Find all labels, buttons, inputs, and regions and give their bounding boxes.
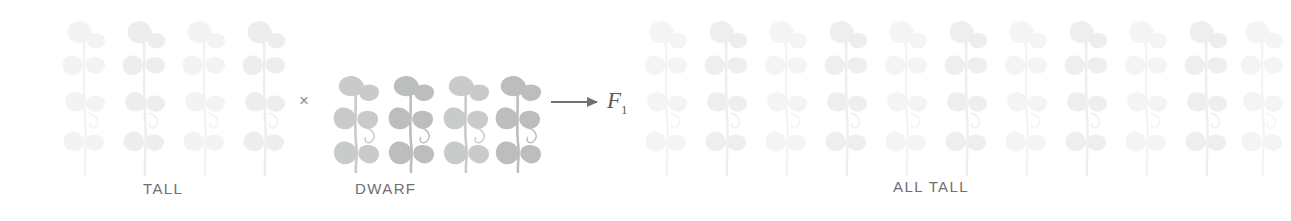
plant-tall xyxy=(1000,17,1054,177)
plant-dwarf xyxy=(330,73,384,173)
label-dwarf: DWARF xyxy=(355,180,416,197)
generation-label: F1 xyxy=(607,89,628,116)
cross-result-arrow-group: F1 xyxy=(551,89,628,116)
plant-tall xyxy=(760,17,814,177)
plant-tall xyxy=(700,17,754,177)
cross-symbol: × xyxy=(299,92,309,109)
monohybrid-cross-figure: TALL × DWARF F1 ALL TALL xyxy=(0,0,1291,221)
plant-tall xyxy=(820,17,874,177)
arrow-right-icon xyxy=(551,101,597,103)
plant-tall xyxy=(1236,17,1290,177)
generation-subscript: 1 xyxy=(621,102,628,117)
plant-dwarf xyxy=(385,73,439,173)
plant-tall xyxy=(238,17,292,177)
label-tall: TALL xyxy=(143,180,183,197)
plant-tall xyxy=(178,17,232,177)
plant-tall xyxy=(58,17,112,177)
plant-dwarf xyxy=(440,73,494,173)
plant-tall xyxy=(640,17,694,177)
plant-tall xyxy=(118,17,172,177)
generation-letter: F xyxy=(607,88,621,113)
plant-tall xyxy=(940,17,994,177)
plant-tall xyxy=(1180,17,1234,177)
plant-dwarf xyxy=(492,73,546,173)
plant-tall xyxy=(1060,17,1114,177)
plant-tall xyxy=(880,17,934,177)
plant-tall xyxy=(1120,17,1174,177)
label-all-tall: ALL TALL xyxy=(893,178,969,195)
